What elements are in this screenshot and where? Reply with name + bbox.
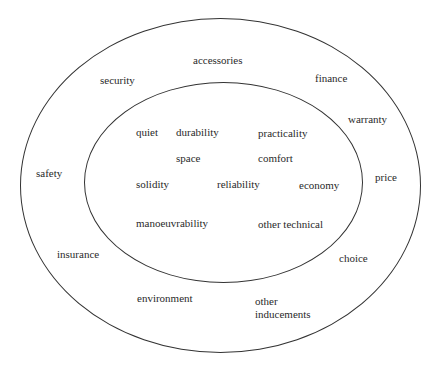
outer-ring-label-other: other — [255, 295, 278, 308]
inner-ring-label-space: space — [176, 152, 200, 165]
inner-ring-label-manoeuvrability: manoeuvrability — [136, 217, 208, 230]
inner-ring-label-economy: economy — [299, 179, 339, 192]
outer-ring-label-accessories: accessories — [193, 54, 242, 67]
outer-ring-label-inducements: inducements — [255, 308, 311, 321]
outer-ring-label-choice: choice — [339, 252, 368, 265]
inner-ring-label-quiet: quiet — [136, 126, 158, 139]
concentric-diagram: accessoriessecurityfinancewarrantysafety… — [0, 0, 441, 370]
outer-ring-label-safety: safety — [36, 167, 62, 180]
outer-ring-label-insurance: insurance — [57, 248, 99, 261]
inner-ring-label-practicality: practicality — [258, 127, 307, 140]
outer-ring-label-environment: environment — [137, 292, 193, 305]
inner-ring-label-durability: durability — [176, 126, 219, 139]
inner-ring-label-solidity: solidity — [136, 178, 169, 191]
outer-ring-label-warranty: warranty — [348, 113, 387, 126]
inner-ring-label-comfort: comfort — [258, 152, 293, 165]
outer-ring-label-finance: finance — [315, 72, 347, 85]
outer-ring-label-price: price — [375, 171, 397, 184]
inner-ring-label-reliability: reliability — [217, 178, 260, 191]
inner-ring-label-other-technical: other technical — [258, 218, 323, 231]
outer-ring-label-security: security — [100, 74, 135, 87]
